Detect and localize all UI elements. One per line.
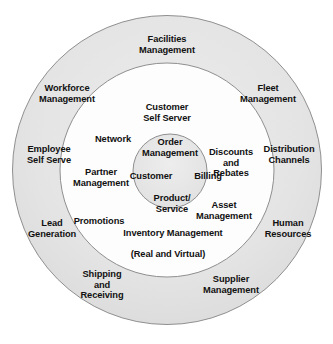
label-network: Network	[95, 134, 131, 145]
label-customer-self-server: Customer Self Server	[143, 102, 190, 123]
inventory-management-subtitle: (Real and Virtual)	[113, 249, 222, 260]
concentric-circles-diagram: Facilities Management Workforce Manageme…	[0, 0, 333, 344]
label-billing: Billing	[194, 171, 222, 182]
label-fleet-management: Fleet Management	[240, 83, 296, 104]
label-product-service: Product/ Service	[154, 193, 191, 214]
label-inventory-management: Inventory Management (Real and Virtual)	[113, 217, 222, 281]
inventory-management-title: Inventory Management	[123, 228, 222, 238]
label-human-resources: Human Resources	[265, 218, 312, 239]
label-workforce-management: Workforce Management	[39, 83, 95, 104]
label-distribution-channels: Distribution Channels	[264, 144, 315, 165]
label-order-management: Order Management	[142, 137, 198, 158]
label-employee-self-serve: Employee Self Serve	[27, 144, 71, 165]
label-partner-management: Partner Management	[73, 167, 129, 188]
label-facilities-management: Facilities Management	[139, 34, 195, 55]
label-lead-generation: Lead Generation	[28, 218, 76, 239]
label-customer: Customer	[130, 171, 173, 182]
